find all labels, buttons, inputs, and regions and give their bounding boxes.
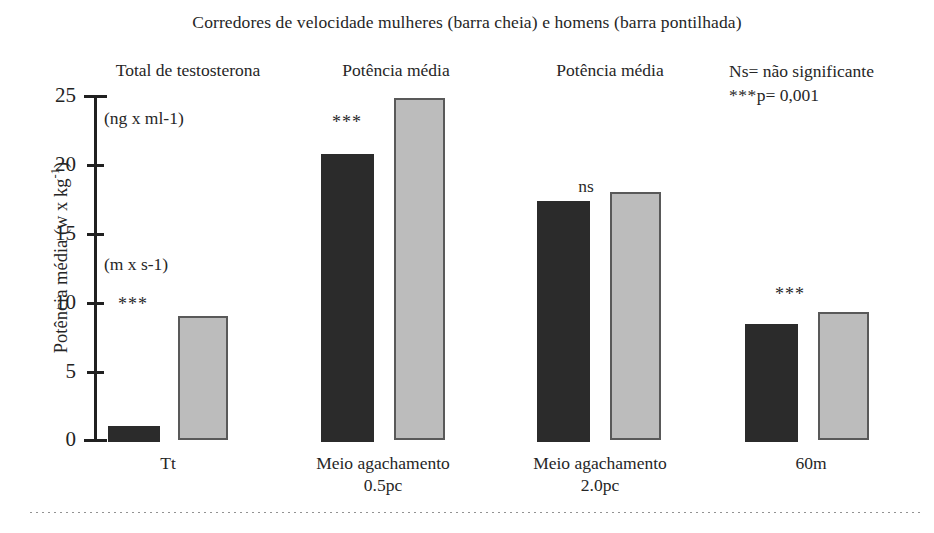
y-tick-mark-15: [87, 233, 104, 236]
category-label-agachamento-20pc-line1: Meio agachamento: [485, 452, 715, 474]
y-axis-title-main: Potência média (w x kg: [51, 179, 71, 354]
group-header-meio-agachamento-05pc: Potência média: [276, 60, 516, 81]
unit-note-testosterone: (ng x ml-1): [104, 108, 184, 129]
y-tick-mark-5: [87, 371, 104, 374]
category-label-agachamento-05pc-line1: Meio agachamento: [268, 452, 498, 474]
y-axis-title-superscript: -1: [48, 168, 62, 178]
legend-note-ns-line: Ns= não significante: [729, 60, 874, 84]
group-header-meio-agachamento-20pc: Potência média: [490, 60, 730, 81]
legend-note-stars: ***: [729, 85, 757, 105]
bar-dark-60m: [745, 324, 798, 442]
significance-60m: ***: [770, 284, 810, 305]
y-tick-mark-25: [84, 95, 107, 98]
bar-light-tt: [178, 316, 228, 440]
category-label-tt-line1: Tt: [98, 452, 238, 474]
legend-note: Ns= não significante ***p= 0,001: [729, 60, 874, 107]
y-tick-mark-20: [87, 164, 104, 167]
bar-light-60m: [818, 312, 869, 440]
unit-note-speed: (m x s-1): [104, 254, 168, 275]
bar-light-agachamento-20pc: [610, 192, 661, 440]
significance-agachamento-20pc: ns: [566, 176, 606, 197]
bar-dark-agachamento-20pc: [537, 201, 590, 442]
category-label-tt: Tt: [98, 452, 238, 474]
chart-title: Corredores de velocidade mulheres (barra…: [0, 12, 934, 33]
category-label-agachamento-20pc-line2: 2.0pc: [485, 474, 715, 496]
significance-tt: ***: [113, 294, 153, 315]
category-label-agachamento-20pc: Meio agachamento 2.0pc: [485, 452, 715, 497]
group-header-testosterona: Total de testosterona: [68, 60, 308, 81]
y-axis-title: Potência média (w x kg-1): [48, 78, 71, 438]
category-label-agachamento-05pc-line2: 0.5pc: [268, 474, 498, 496]
figure-root: Corredores de velocidade mulheres (barra…: [0, 0, 934, 533]
bar-dark-agachamento-05pc: [321, 154, 374, 442]
significance-agachamento-05pc: ***: [327, 112, 367, 133]
bar-dark-tt: [108, 426, 160, 442]
legend-note-p-line: ***p= 0,001: [729, 84, 874, 108]
category-label-60m-line1: 60m: [736, 452, 886, 474]
y-tick-mark-10: [87, 302, 104, 305]
y-tick-mark-0: [84, 439, 107, 442]
category-label-agachamento-05pc: Meio agachamento 0.5pc: [268, 452, 498, 497]
category-label-60m: 60m: [736, 452, 886, 474]
bottom-dotted-rule: [28, 511, 920, 514]
bar-light-agachamento-05pc: [394, 98, 445, 440]
legend-note-pvalue: p= 0,001: [757, 85, 819, 105]
y-axis-line: [94, 95, 97, 442]
y-axis-title-close: ): [51, 162, 71, 168]
